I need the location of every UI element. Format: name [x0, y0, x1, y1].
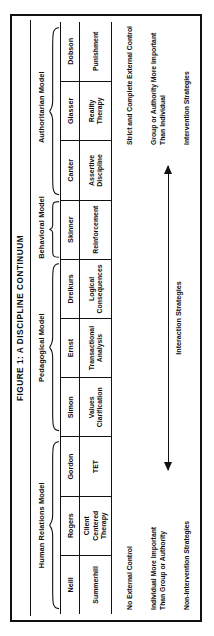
theorist-name: Glasser	[61, 82, 80, 141]
approach-line-1: TET	[92, 460, 100, 473]
theorist-name: Dobson	[61, 22, 80, 81]
discipline-continuum-figure: FIGURE 1: A DISCIPLINE CONTINUUM Human R…	[10, 14, 202, 622]
approach-line-1: Client	[83, 516, 91, 535]
approach-cell: ValuesClarification	[80, 378, 111, 436]
approach-line-1: Reinforcement	[92, 206, 100, 254]
brace-0	[49, 436, 60, 614]
approach-line-2: Therapy	[96, 97, 104, 124]
model-header-2: Behavioral Model	[34, 196, 49, 259]
approach-line-1: Punishment	[92, 32, 100, 71]
approach-line-1: Logical	[88, 277, 96, 301]
approach-line-2: Discipline	[96, 154, 104, 187]
continuum-column-4: ErnstTransactionalAnalysis	[61, 318, 111, 377]
approach-line-1: Values	[88, 396, 96, 418]
theorist-name: Canter	[61, 141, 80, 200]
approach-cell: Punishment	[80, 22, 111, 81]
continuum-column-9: DobsonPunishment	[61, 22, 111, 81]
continuum-grid: NeillSummerhillRogersClientCenteredThera…	[60, 22, 112, 614]
arrow-head-right-icon	[164, 165, 172, 174]
model-group-0: NeillSummerhillRogersClientCenteredThera…	[61, 436, 111, 614]
approach-cell: LogicalConsequences	[80, 260, 111, 318]
approach-line-1: Summerhill	[92, 566, 100, 604]
right-desc-line-2: Group or Authority More Important Than I…	[149, 26, 167, 145]
model-header-1: Pedagogical Model	[34, 259, 49, 437]
approach-line-1: Reality	[88, 100, 96, 123]
brace-3	[49, 22, 60, 200]
brace-2	[49, 200, 60, 259]
continuum-column-6: SkinnerReinforcement	[61, 201, 111, 259]
title-divider-rule	[30, 20, 31, 616]
approach-cell: TET	[80, 437, 111, 495]
left-desc-line-3: Non-Intervention Strategies	[182, 521, 191, 610]
theorist-name: Gordon	[61, 437, 80, 495]
approach-cell: AssertiveDiscipline	[80, 141, 111, 200]
theorist-name: Rogers	[61, 497, 80, 555]
approach-line-2: Consequences	[96, 264, 104, 313]
approach-line-2: Analysis	[96, 334, 104, 362]
interaction-strategies-label: Interaction Strategies	[174, 166, 183, 470]
approach-line-1: Assertive	[88, 155, 96, 186]
continuum-column-8: GlasserRealityTherapy	[61, 81, 111, 141]
approach-line-1: Transactional	[88, 326, 96, 370]
continuum-column-5: DreikursLogicalConsequences	[61, 260, 111, 318]
left-desc-line-2: Individual More Important Than Group or …	[149, 521, 167, 610]
left-desc-line-1: No External Control	[125, 521, 134, 610]
continuum-column-7: CanterAssertiveDiscipline	[61, 140, 111, 200]
left-description-block: No External Control Individual More Impo…	[116, 521, 201, 610]
theorist-name: Dreikurs	[61, 260, 80, 318]
approach-cell: Summerhill	[80, 556, 111, 614]
brace-1	[49, 259, 60, 437]
model-header-row: Human Relations ModelPedagogical ModelBe…	[34, 22, 49, 614]
continuum-column-3: SimonValuesClarification	[61, 377, 111, 436]
interaction-arrow-area: Interaction Strategies	[162, 166, 188, 470]
figure-rotation-wrapper: FIGURE 1: A DISCIPLINE CONTINUUM Human R…	[0, 0, 214, 636]
approach-cell: RealityTherapy	[80, 82, 111, 141]
continuum-column-2: GordonTET	[61, 437, 111, 495]
arrow-shaft	[168, 166, 169, 470]
continuum-column-1: RogersClientCenteredTherapy	[61, 496, 111, 555]
approach-cell: TransactionalAnalysis	[80, 319, 111, 377]
theorist-name: Ernst	[61, 319, 80, 377]
continuum-column-0: NeillSummerhill	[61, 555, 111, 614]
model-group-3: CanterAssertiveDisciplineGlasserRealityT…	[61, 22, 111, 200]
theorist-name: Skinner	[61, 201, 80, 259]
approach-line-3: Therapy	[100, 512, 108, 539]
approach-line-2: Centered	[92, 511, 100, 541]
model-header-0: Human Relations Model	[34, 436, 49, 614]
right-description-block: Strict and Complete External Control Gro…	[116, 26, 201, 145]
right-desc-line-1: Strict and Complete External Control	[125, 26, 134, 145]
figure-title: FIGURE 1: A DISCIPLINE CONTINUUM	[16, 16, 25, 620]
arrow-head-left-icon	[164, 462, 172, 471]
approach-cell: Reinforcement	[80, 201, 111, 259]
model-header-3: Authoritarian Model	[34, 18, 49, 196]
approach-line-2: Clarification	[96, 387, 104, 427]
approach-cell: ClientCenteredTherapy	[80, 497, 111, 555]
theorist-name: Neill	[61, 556, 80, 614]
model-group-1: SimonValuesClarificationErnstTransaction…	[61, 259, 111, 437]
theorist-name: Simon	[61, 378, 80, 436]
model-group-2: SkinnerReinforcement	[61, 200, 111, 259]
brace-row	[49, 22, 60, 614]
right-desc-line-3: Intervention Strategies	[182, 26, 191, 145]
